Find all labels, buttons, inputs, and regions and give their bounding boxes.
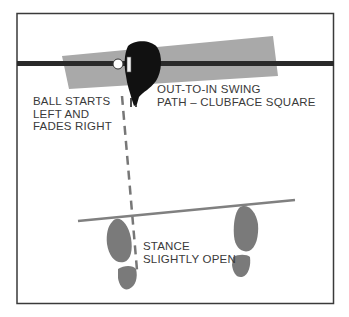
ball-flight-label-line-1: BALL STARTS <box>33 95 112 108</box>
stance-label-line-2: SLIGHTLY OPEN <box>143 253 236 266</box>
ball-flight-label: BALL STARTS LEFT AND FADES RIGHT <box>33 95 112 133</box>
golf-ball <box>113 59 123 69</box>
target-line <box>17 61 334 66</box>
stance-label-line-1: STANCE <box>143 240 236 253</box>
swing-path-label-line-2: PATH – CLUBFACE SQUARE <box>157 96 316 109</box>
ball-flight-label-line-2: LEFT AND <box>33 108 112 121</box>
ball-flight-label-line-3: FADES RIGHT <box>33 120 112 133</box>
swing-path-label-line-1: OUT-TO-IN SWING <box>157 83 316 96</box>
swing-path-label: OUT-TO-IN SWING PATH – CLUBFACE SQUARE <box>157 83 316 108</box>
golf-swing-diagram <box>0 0 349 317</box>
stance-label: STANCE SLIGHTLY OPEN <box>143 240 236 265</box>
clubface <box>127 57 131 72</box>
